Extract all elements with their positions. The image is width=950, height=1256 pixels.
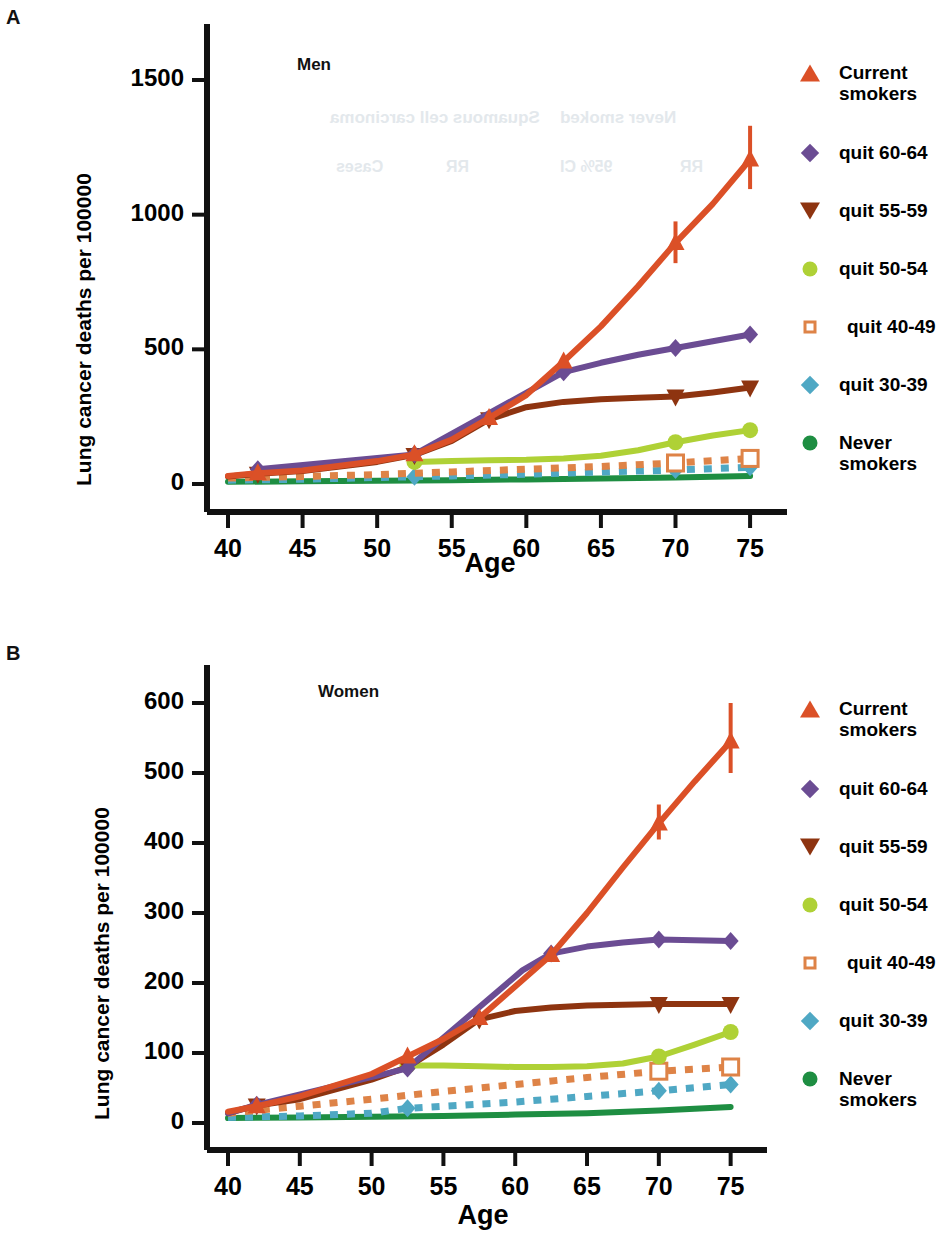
a-xtick-60: 60 [486,534,566,563]
legend-item-quit-50-54[interactable]: quit 50-54 [795,894,928,916]
legend-label: quit 50-54 [839,894,928,915]
legend-marker-triangle-up-icon [795,62,825,84]
legend-label: Never smokers [839,1068,917,1111]
legend-item-quit-30-39[interactable]: quit 30-39 [795,1010,928,1032]
legend-item-quit-60-64[interactable]: quit 60-64 [795,142,928,164]
legend-item-quit-55-59[interactable]: quit 55-59 [795,836,928,858]
a-ytick-0: 0 [0,468,184,496]
legend-item-quit-60-64[interactable]: quit 60-64 [795,778,928,800]
legend-label: quit 40-49 [847,316,936,337]
legend-marker-diamond-icon [795,142,825,164]
b-xtick-65: 65 [547,1172,627,1201]
legend-item-quit-55-59[interactable]: quit 55-59 [795,200,928,222]
legend-label: quit 30-39 [839,1010,928,1031]
b-xtick-75: 75 [691,1172,771,1201]
b-ytick-400: 400 [0,827,184,855]
panel-a-legend: Current smokersquit 60-64quit 55-59quit … [795,62,950,522]
legend-label: quit 55-59 [839,836,928,857]
a-xtick-45: 45 [263,534,343,563]
series-current-smokers [228,126,759,480]
legend-marker-square-open-icon [795,316,825,338]
legend-item-quit-40-49[interactable]: quit 40-49 [795,952,936,974]
legend-label: quit 60-64 [839,778,928,799]
legend-label: quit 40-49 [847,952,936,973]
panel-b-legend: Current smokersquit 60-64quit 55-59quit … [795,698,950,1158]
b-xtick-60: 60 [475,1172,555,1201]
b-ytick-300: 300 [0,897,184,925]
legend-marker-circle-icon [795,432,825,454]
panel-b-x-axis-label: Age [393,1200,573,1231]
legend-item-never-smokers[interactable]: Never smokers [795,432,917,475]
b-xtick-40: 40 [188,1172,268,1201]
b-xtick-45: 45 [260,1172,340,1201]
a-xtick-50: 50 [337,534,417,563]
legend-label: Current smokers [839,62,917,105]
legend-marker-triangle-down-icon [795,200,825,222]
b-xtick-70: 70 [619,1172,699,1201]
b-ytick-200: 200 [0,967,184,995]
b-ytick-600: 600 [0,687,184,715]
panel-a: A Lung cancer deaths per 100000 Men Neve… [0,0,950,620]
a-xtick-55: 55 [412,534,492,563]
legend-marker-diamond-icon [795,1010,825,1032]
a-ytick-1000: 1000 [0,199,184,227]
legend-item-never-smokers[interactable]: Never smokers [795,1068,917,1111]
legend-item-current-smokers[interactable]: Current smokers [795,698,917,741]
b-xtick-55: 55 [403,1172,483,1201]
b-axes [207,665,767,1150]
legend-marker-diamond-icon [795,778,825,800]
legend-item-quit-40-49[interactable]: quit 40-49 [795,316,936,338]
a-xtick-65: 65 [561,534,641,563]
legend-label: quit 55-59 [839,200,928,221]
legend-item-current-smokers[interactable]: Current smokers [795,62,917,105]
legend-marker-circle-icon [795,894,825,916]
legend-label: Never smokers [839,432,917,475]
b-ytick-100: 100 [0,1037,184,1065]
legend-marker-square-open-icon [795,952,825,974]
a-xtick-70: 70 [636,534,716,563]
legend-marker-circle-icon [795,1068,825,1090]
legend-marker-triangle-down-icon [795,836,825,858]
legend-marker-circle-icon [795,258,825,280]
a-ytick-500: 500 [0,333,184,361]
b-ytick-500: 500 [0,757,184,785]
legend-label: quit 60-64 [839,142,928,163]
b-ytick-0: 0 [0,1107,184,1135]
a-xtick-40: 40 [188,534,268,563]
legend-label: Current smokers [839,698,917,741]
a-ytick-1500: 1500 [0,64,184,92]
legend-marker-triangle-up-icon [795,698,825,720]
legend-item-quit-50-54[interactable]: quit 50-54 [795,258,928,280]
panel-b: B Lung cancer deaths per 100000 Women Ag… [0,620,950,1256]
a-xtick-75: 75 [710,534,790,563]
legend-marker-diamond-icon [795,374,825,396]
legend-item-quit-30-39[interactable]: quit 30-39 [795,374,928,396]
legend-label: quit 30-39 [839,374,928,395]
b-xtick-50: 50 [332,1172,412,1201]
legend-label: quit 50-54 [839,258,928,279]
